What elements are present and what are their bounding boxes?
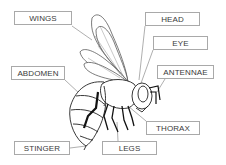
leader-wings <box>72 26 92 40</box>
label-head: HEAD <box>145 12 200 26</box>
bee-anatomy-diagram: WINGS HEAD EYE ANTENNAE ABDOMEN THORAX S… <box>0 0 226 165</box>
label-thorax: THORAX <box>146 121 200 135</box>
head-drawing <box>132 83 152 112</box>
label-eye: EYE <box>153 36 208 50</box>
label-legs: LEGS <box>102 141 157 155</box>
leader-head <box>139 26 145 80</box>
label-antennae: ANTENNAE <box>157 65 214 79</box>
wings-drawing <box>80 15 128 82</box>
leader-stinger <box>70 146 86 148</box>
label-stinger: STINGER <box>14 141 70 155</box>
label-abdomen: ABDOMEN <box>11 66 65 80</box>
label-wings: WINGS <box>14 11 72 25</box>
